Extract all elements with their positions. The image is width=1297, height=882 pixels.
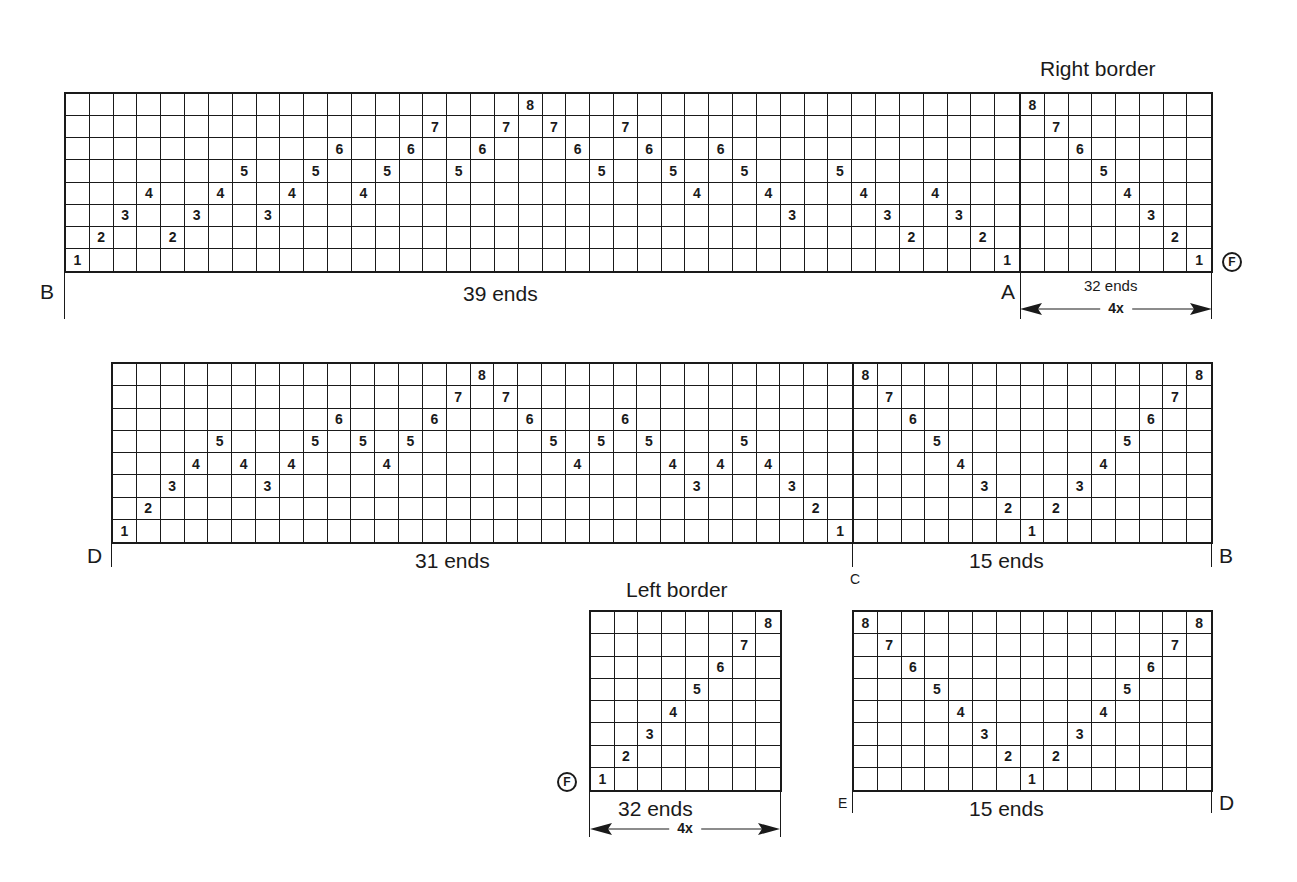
middle-main-ends-label: 31 ends xyxy=(415,549,490,573)
grid-cell xyxy=(902,746,926,768)
grid-cell xyxy=(757,475,781,497)
grid-cell xyxy=(1068,679,1092,701)
grid-cell xyxy=(876,94,900,116)
grid-cell xyxy=(591,657,615,679)
grid-cell xyxy=(662,227,686,249)
grid-cell xyxy=(949,768,973,790)
grid-cell xyxy=(709,475,733,497)
grid-cell xyxy=(1069,205,1093,227)
grid-cell xyxy=(662,657,686,679)
grid-cell xyxy=(256,409,280,431)
threading-mark: 6 xyxy=(400,138,424,160)
grid-cell xyxy=(543,94,567,116)
grid-cell xyxy=(208,453,232,475)
grid-cell xyxy=(733,453,757,475)
grid-cell xyxy=(590,138,614,160)
grid-cell xyxy=(1187,205,1211,227)
grid-cell xyxy=(1116,746,1140,768)
grid-cell xyxy=(854,520,878,542)
grid-cell xyxy=(805,227,829,249)
grid-cell xyxy=(1092,612,1116,634)
grid-cell xyxy=(805,249,829,271)
grid-cell xyxy=(1116,612,1140,634)
grid-cell xyxy=(1092,634,1116,656)
grid-cell xyxy=(1140,453,1164,475)
threading-mark: 3 xyxy=(257,205,281,227)
grid-cell xyxy=(1044,723,1068,745)
grid-cell xyxy=(902,453,926,475)
grid-cell xyxy=(685,498,709,520)
grid-cell xyxy=(1021,612,1045,634)
grid-cell xyxy=(781,249,805,271)
grid-cell xyxy=(638,160,662,182)
grid-cell xyxy=(828,205,852,227)
grid-cell xyxy=(114,183,138,205)
grid-cell xyxy=(686,634,710,656)
left-border-ends-label: 32 ends xyxy=(618,797,693,821)
grid-cell xyxy=(161,431,185,453)
grid-cell xyxy=(114,94,138,116)
grid-cell xyxy=(376,249,400,271)
grid-cell xyxy=(113,431,137,453)
grid-cell xyxy=(590,453,614,475)
grid-cell xyxy=(614,431,638,453)
grid-cell xyxy=(638,183,662,205)
grid-cell xyxy=(351,453,375,475)
threading-mark: 5 xyxy=(233,160,257,182)
grid-cell xyxy=(1187,746,1211,768)
grid-cell xyxy=(1164,94,1188,116)
grid-cell xyxy=(662,183,686,205)
grid-cell xyxy=(661,431,685,453)
grid-cell xyxy=(878,679,902,701)
threading-mark: 2 xyxy=(997,746,1021,768)
grid-cell xyxy=(709,386,733,408)
grid-cell xyxy=(185,227,209,249)
threading-mark: 5 xyxy=(733,160,757,182)
threading-mark: 8 xyxy=(471,364,495,386)
grid-cell xyxy=(973,746,997,768)
grid-cell xyxy=(757,205,781,227)
grid-cell xyxy=(304,138,328,160)
grid-cell xyxy=(804,520,828,542)
grid-cell xyxy=(804,453,828,475)
grid-cell xyxy=(902,679,926,701)
grid-cell xyxy=(638,612,662,634)
grid-cell xyxy=(66,94,90,116)
middle-right-ends-label: 15 ends xyxy=(969,549,1044,573)
left-border-end-tick xyxy=(780,791,781,837)
grid-cell xyxy=(780,386,804,408)
grid-cell xyxy=(185,94,209,116)
grid-cell xyxy=(1044,409,1068,431)
grid-cell xyxy=(1021,475,1045,497)
grid-cell xyxy=(1140,520,1164,542)
point-c-label: C xyxy=(850,571,860,587)
grid-cell xyxy=(662,94,686,116)
grid-cell xyxy=(400,183,424,205)
grid-cell xyxy=(376,227,400,249)
grid-cell xyxy=(376,116,400,138)
grid-cell xyxy=(352,205,376,227)
grid-cell xyxy=(805,160,829,182)
grid-cell xyxy=(566,409,590,431)
grid-cell xyxy=(902,431,926,453)
grid-cell xyxy=(924,94,948,116)
grid-cell xyxy=(757,364,781,386)
grid-cell xyxy=(1163,475,1187,497)
grid-cell xyxy=(733,205,757,227)
grid-cell xyxy=(209,94,233,116)
grid-cell xyxy=(1092,227,1116,249)
grid-cell xyxy=(973,386,997,408)
grid-cell xyxy=(304,409,328,431)
grid-cell xyxy=(519,249,543,271)
grid-cell xyxy=(661,409,685,431)
threading-mark: 5 xyxy=(1116,679,1140,701)
grid-cell xyxy=(90,116,114,138)
grid-cell xyxy=(1164,138,1188,160)
grid-cell xyxy=(161,520,185,542)
grid-cell xyxy=(591,723,615,745)
grid-cell xyxy=(997,657,1021,679)
grid-cell xyxy=(304,364,328,386)
threading-mark: 6 xyxy=(1140,409,1164,431)
grid-cell xyxy=(1116,701,1140,723)
grid-cell xyxy=(949,386,973,408)
